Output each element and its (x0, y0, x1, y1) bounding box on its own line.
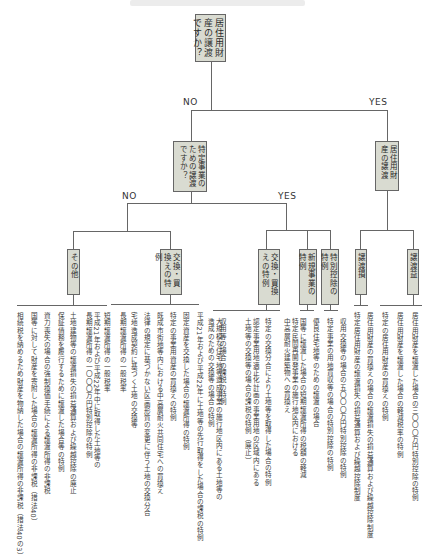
leaf-gain-2: 居住用財産を譲渡した場合の軽減税率の特例 (395, 312, 403, 458)
leaf-exchange-no-2: 特定の事業用資産の買換えの特例 (168, 312, 176, 422)
leaf-other-5: 保証債務を履行するために譲渡した場合等の特例 (56, 312, 64, 473)
connector (413, 230, 414, 249)
leaf-other-7: 国等に対して財産を寄附した場合の譲渡所得の非課税（措法40） (29, 312, 37, 525)
residential-transfer-box: 居住用財産の譲渡 (375, 141, 399, 191)
connector (380, 305, 422, 306)
leaf-other-1: 短期譲渡所得の一般税率 (102, 312, 110, 392)
leaf-exchange-yes-2: 大規模な住宅地等造成事業の施行地区内にある土地等の 造成のための交換等の場合の特… (206, 318, 222, 501)
leaf-loss-1: 特定居住用財産の譲渡損失の損益通算および繰越控除制度 (352, 312, 360, 502)
connector (307, 230, 308, 249)
gain-box: 譲渡益 (407, 249, 419, 295)
leaf-other-4: 土地建物等の譲渡損失の損益通算および繰越控除の廃止 (68, 312, 76, 495)
connector (354, 305, 368, 306)
leaf-other-8: 相続税を納めるため財産を物納した場合の譲渡所得の非課税（措法40の3） (15, 312, 23, 558)
yes-label: YES (369, 97, 387, 107)
leaf-exchange-no-5: 宅地造成契約に基づく土地の交換等 (129, 312, 137, 429)
leaf-other-6: 資力喪失の場合の強制換価手続による譲渡所得の非課税 (42, 312, 50, 495)
leaf-other-2: 平成21年および平成22年中に取得した土地等の 長期譲渡所得の一〇〇〇万円特別控… (84, 312, 100, 469)
no-label: NO (122, 191, 137, 201)
leaf-special-1: 特定事業の用地買収等の場合の特別控除の特例 (325, 318, 333, 471)
leaf-new-project-1: 国等に譲渡した場合の短期譲渡所得の税額の軽減 (298, 318, 306, 479)
page-header-text (130, 0, 305, 6)
connector (127, 203, 287, 204)
connector (360, 295, 361, 305)
leaf-loss-2: 居住用財産の買換えの場合の譲渡損失の損益通算および繰越控除制度 (365, 312, 373, 538)
connector (191, 110, 388, 111)
connector (211, 62, 212, 110)
connector (413, 295, 414, 305)
leaf-special-2: 収用交換等の場合の五〇〇〇万円特別控除の特例 (338, 318, 346, 479)
leaf-exchange-no-4: 法律の規定に基づかない区画形質の変更に伴う土地の交換分合 (142, 312, 150, 516)
connector (73, 231, 171, 232)
exchange-box-yes: 交換・買換えの特例 (258, 249, 280, 305)
connector (73, 295, 74, 305)
connector (191, 192, 192, 203)
connector (191, 110, 192, 141)
leaf-exchange-no-1: 固定資産を交換した場合の譲渡所得の特例 (181, 312, 189, 451)
leaf-gain-1: 特定の居住用財産の買換えの特例 (380, 312, 388, 422)
connector (73, 231, 74, 249)
connector (170, 295, 171, 304)
special-project-question-box: 特定事業のための譲渡ですか？ (173, 141, 207, 192)
connector (111, 304, 199, 305)
connector (170, 231, 171, 249)
connector (213, 310, 280, 311)
leaf-gain-3: 居住用財産を譲渡した場合の三〇〇〇万円特別控除の特例 (410, 312, 418, 502)
connector (387, 191, 388, 230)
root-question-box: 居住用財産の譲渡ですか？ (195, 14, 226, 62)
connector (266, 230, 331, 231)
new-project-box: 新規事業の特例 (299, 249, 317, 305)
leaf-exchange-yes-5: 特定民間再開発事業の施行地区内における 中高層耐火建築物への買換え (282, 318, 298, 457)
exchange-box-no: 交換・買換えの特例 (160, 249, 182, 295)
connector (17, 305, 107, 306)
other-box: その他 (67, 249, 80, 295)
leaf-new-project-2: 優良住宅地等のための譲渡の場合 (311, 318, 319, 428)
leaf-exchange-extra-1: 平成21年および平成22年に土地等の先行取得をした場合の課税の特例 (195, 312, 203, 542)
connector (266, 230, 267, 249)
connector (330, 230, 331, 249)
special-deduction-box: 特別控除の特例 (321, 249, 339, 305)
connector (300, 310, 314, 311)
leaf-other-3: 長期譲渡所得の一般税率 (118, 312, 126, 392)
connector (360, 230, 414, 231)
no-label: NO (183, 97, 198, 107)
yes-label: YES (278, 191, 296, 201)
connector (324, 310, 338, 311)
leaf-exchange-no-3: 既成市街地等内における中高層耐火共同住宅への買換え (155, 312, 163, 495)
loss-box: 譲渡損 (355, 249, 367, 295)
connector (360, 230, 361, 249)
connector (387, 110, 388, 141)
leaf-exchange-yes-4: 特定の交換分合により土地等を取得した場合の特例 (263, 318, 271, 486)
leaf-exchange-yes-3: 認定事業用地適正化計画の事業用地の区域内にある 土地等の交換等の場合の課税の特例… (243, 318, 259, 486)
connector (286, 203, 287, 230)
connector (127, 203, 128, 232)
